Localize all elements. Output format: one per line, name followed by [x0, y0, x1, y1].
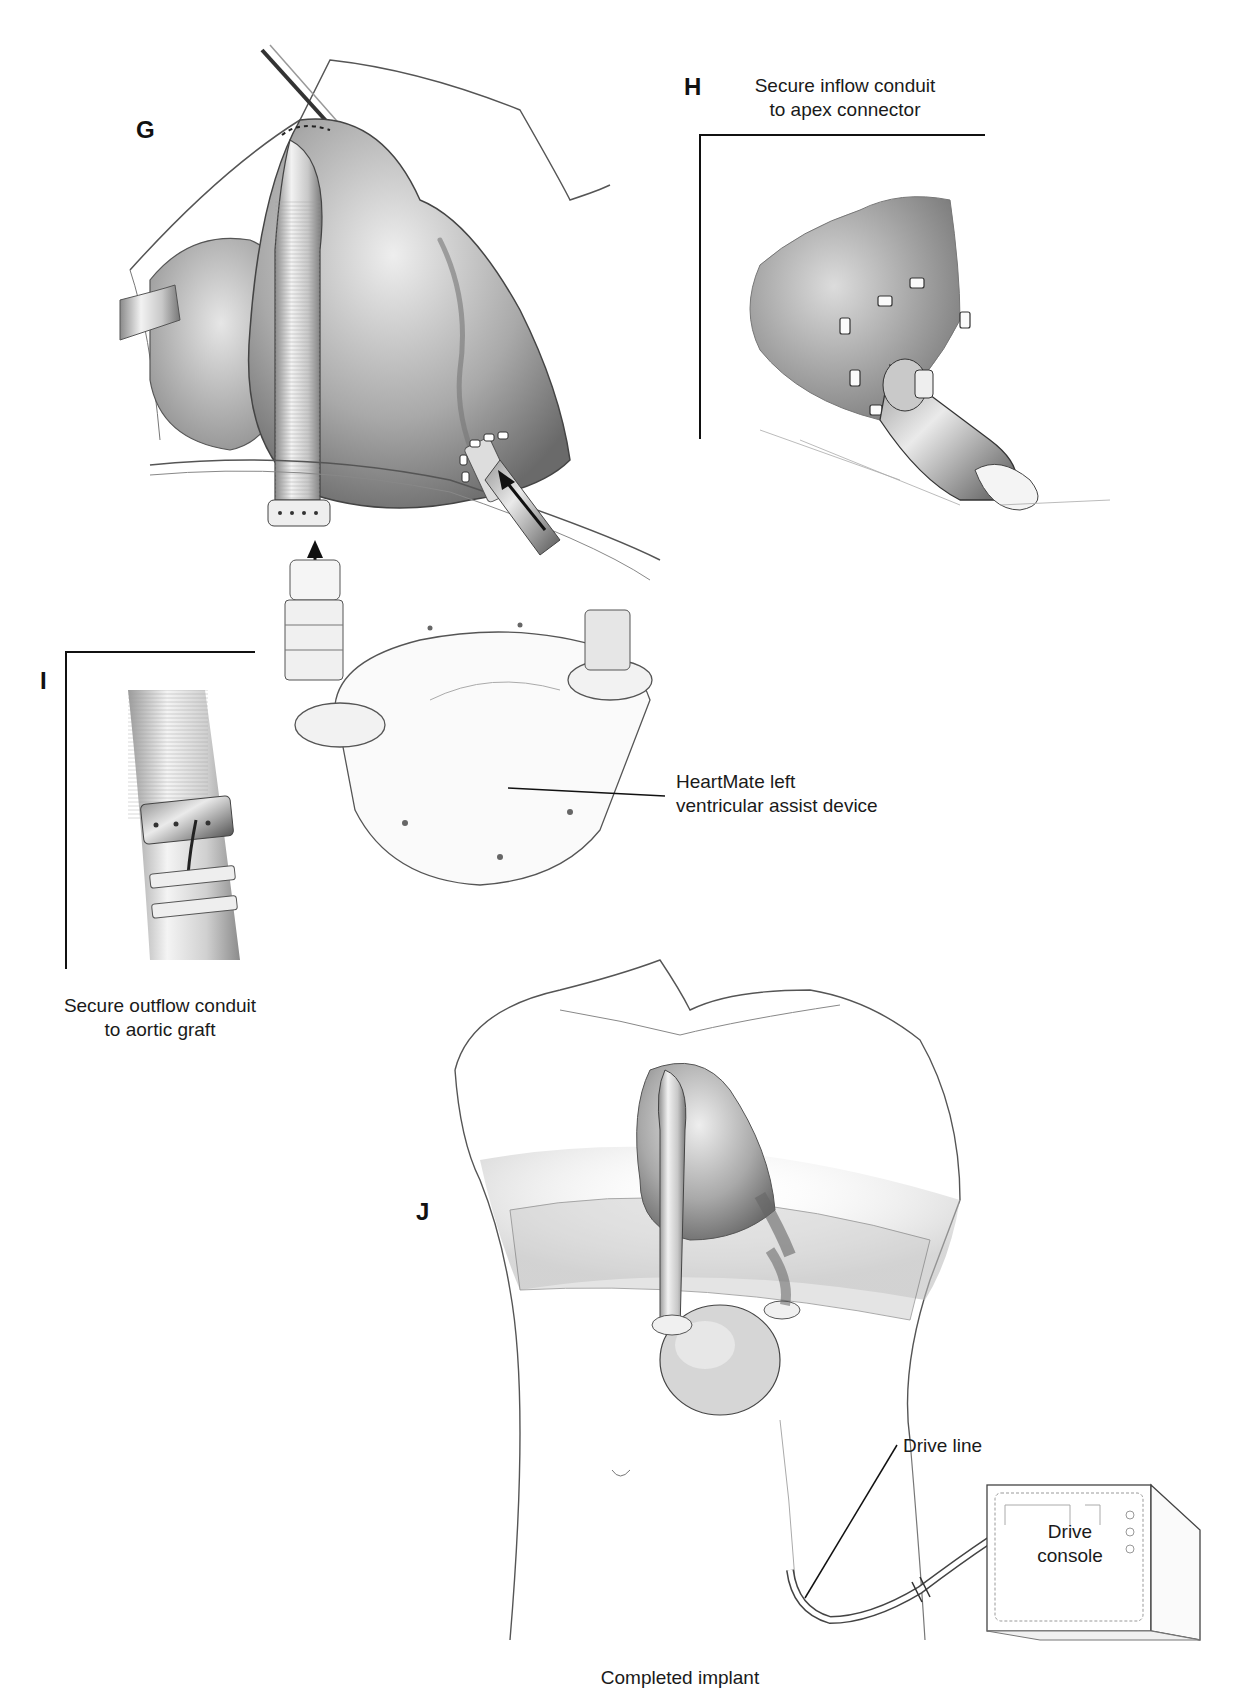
panel-h-caption-line2: to apex connector [735, 98, 955, 122]
panel-h-caption-line1: Secure inflow conduit [735, 74, 955, 98]
panel-letter-j: J [416, 1200, 429, 1224]
device-label-line1: HeartMate left [676, 770, 878, 794]
panel-i-caption-line1: Secure outflow conduit [50, 994, 270, 1018]
drive-console-label: Drive console [1020, 1520, 1120, 1568]
device-label: HeartMate left ventricular assist device [676, 770, 878, 818]
panel-j-caption: Completed implant [560, 1666, 800, 1690]
drive-console-line1: Drive [1020, 1520, 1120, 1544]
drive-console-line2: console [1020, 1544, 1120, 1568]
panel-i-caption-line2: to aortic graft [50, 1018, 270, 1042]
panel-h-bracket-left [699, 134, 701, 439]
panel-h-bracket-top [699, 134, 985, 136]
panel-letter-i: I [40, 669, 47, 693]
panel-h-artwork [750, 197, 1110, 510]
panel-i-caption: Secure outflow conduit to aortic graft [50, 994, 270, 1042]
device-label-line2: ventricular assist device [676, 794, 878, 818]
drive-line-label: Drive line [903, 1434, 982, 1458]
panel-i-bracket-left [65, 651, 67, 969]
surgical-illustration [0, 0, 1248, 1704]
panel-i-bracket-top [65, 651, 255, 653]
panel-h-caption: Secure inflow conduit to apex connector [735, 74, 955, 122]
panel-letter-h: H [684, 75, 701, 99]
panel-i-artwork [128, 690, 240, 960]
panel-letter-g: G [136, 118, 155, 142]
